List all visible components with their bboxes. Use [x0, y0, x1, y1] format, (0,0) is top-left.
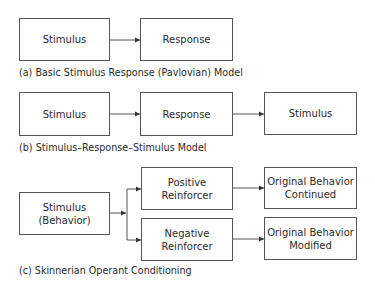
c-stimulus-box: Stimulus (Behavior) [19, 192, 110, 235]
c-behavior-continued-label: Original Behavior Continued [267, 175, 354, 201]
b-response-label: Response [162, 108, 210, 121]
a-stimulus-label: Stimulus [43, 33, 86, 46]
c-negative-reinforcer-box: Negative Reinforcer [141, 218, 233, 261]
a-stimulus-box: Stimulus [19, 18, 110, 61]
a-response-label: Response [162, 33, 210, 46]
caption-b: (b) Stimulus–Response–Stimulus Model [19, 142, 207, 154]
c-behavior-modified-box: Original Behavior Modified [264, 217, 357, 260]
b-stimulus-2-label: Stimulus [289, 107, 332, 120]
b-response-box: Response [140, 92, 233, 136]
b-stimulus-1-box: Stimulus [19, 92, 110, 136]
caption-c: (c) Skinnerian Operant Conditioning [19, 265, 192, 277]
c-stimulus-label: Stimulus (Behavior) [38, 201, 90, 227]
c-behavior-modified-label: Original Behavior Modified [267, 226, 354, 252]
c-negative-reinforcer-label: Negative Reinforcer [161, 227, 212, 253]
b-stimulus-1-label: Stimulus [43, 108, 86, 121]
a-response-box: Response [140, 18, 233, 61]
b-stimulus-2-box: Stimulus [264, 92, 357, 135]
c-behavior-continued-box: Original Behavior Continued [264, 167, 357, 209]
caption-a: (a) Basic Stimulus Response (Pavlovian) … [19, 67, 243, 79]
c-positive-reinforcer-label: Positive Reinforcer [161, 176, 212, 202]
c-positive-reinforcer-box: Positive Reinforcer [141, 167, 233, 210]
